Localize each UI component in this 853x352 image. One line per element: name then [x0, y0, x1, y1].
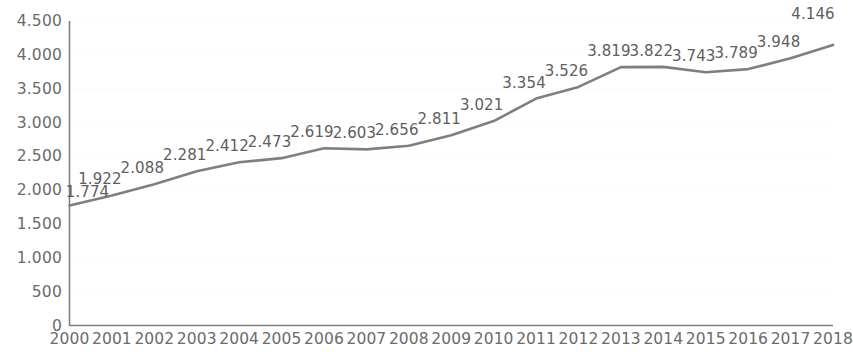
data-point-label: 2.088	[121, 159, 164, 177]
data-point-label: 2.619	[290, 123, 333, 141]
data-point-label: 3.822	[630, 42, 673, 60]
data-point-label: 2.473	[248, 133, 291, 151]
data-point-label: 3.354	[502, 74, 545, 92]
data-point-label: 3.948	[757, 33, 800, 51]
data-point-label: 4.146	[791, 5, 834, 23]
data-point-label: 2.656	[375, 121, 418, 139]
data-point-label: 3.021	[460, 96, 503, 114]
data-point-label: 2.811	[418, 110, 461, 128]
data-point-label: 2.412	[205, 137, 248, 155]
data-point-label: 2.281	[163, 146, 206, 164]
axis-lines	[70, 21, 834, 326]
data-point-label: 1.922	[78, 170, 121, 188]
data-point-label: 3.743	[672, 47, 715, 65]
data-point-label: 3.819	[587, 42, 630, 60]
data-point-label: 3.789	[714, 44, 757, 62]
data-point-label: 3.526	[545, 62, 588, 80]
data-point-label: 2.603	[333, 124, 376, 142]
